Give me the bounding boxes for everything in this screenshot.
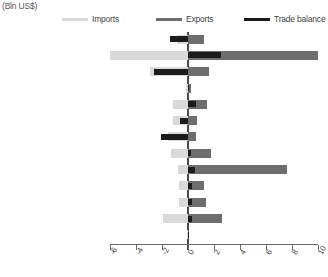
legend-swatch-exports	[156, 18, 182, 21]
bar-trade-balance	[188, 85, 189, 91]
bar-trade-balance	[180, 118, 188, 124]
bar-imports	[179, 198, 188, 207]
x-tick-label: 0	[186, 248, 196, 256]
bar-exports	[188, 67, 209, 76]
legend-item-imports: Imports	[62, 13, 119, 26]
bar-trade-balance	[188, 167, 195, 173]
legend-label-imports: Imports	[92, 14, 119, 25]
bar-row: Developed N. America	[110, 65, 318, 81]
chart-legend: Imports Exports Trade balance	[62, 13, 320, 26]
x-tick-label: -4	[134, 246, 145, 256]
legend-swatch-trade-balance	[244, 18, 270, 21]
bar-trade-balance	[188, 101, 196, 107]
legend-label-trade-balance: Trade balance	[274, 14, 325, 25]
bar-row: Sub-Saharan Africa	[110, 130, 318, 146]
legend-swatch-imports	[62, 18, 88, 21]
units-label: (Bln US$)	[2, 1, 37, 11]
bar-exports	[188, 132, 196, 141]
bar-row: Latin Am, Caribbean	[110, 146, 318, 162]
x-axis: -6-4-20246810	[110, 244, 318, 245]
bar-trade-balance	[161, 134, 188, 140]
x-tick-label: 10	[316, 245, 328, 257]
bar-trade-balance	[188, 150, 191, 156]
x-tick-label: 6	[264, 248, 274, 256]
bar-row: Southern Asia	[110, 179, 318, 195]
bar-trade-balance	[188, 52, 221, 58]
bar-imports	[179, 181, 188, 190]
bar-trade-balance	[188, 199, 192, 205]
legend-item-exports: Exports	[156, 13, 213, 26]
bar-imports	[178, 165, 188, 174]
bar-trade-balance	[188, 183, 192, 189]
x-tick-label: 2	[212, 248, 222, 256]
bar-exports	[188, 35, 204, 44]
bar-exports	[188, 214, 222, 223]
legend-label-exports: Exports	[186, 14, 213, 25]
bar-row: Developed Asia-Pacific	[110, 32, 318, 48]
bar-imports	[171, 149, 188, 158]
plot-area: Developed Asia-PacificDeveloped EuropeDe…	[110, 32, 318, 244]
x-tick-label: 8	[290, 248, 300, 256]
bar-row: South-eastern Asia	[110, 195, 318, 211]
bar-imports	[173, 100, 188, 109]
bar-imports	[110, 51, 188, 60]
bar-trade-balance	[188, 216, 192, 222]
bar-trade-balance	[170, 36, 188, 42]
bar-row: South-eastern Europe	[110, 81, 318, 97]
bar-row: Northern Africa	[110, 114, 318, 130]
bar-exports	[188, 116, 197, 125]
x-tick-label: 4	[238, 248, 248, 256]
legend-item-trade-balance: Trade balance	[244, 13, 325, 26]
x-tick-label: -2	[160, 246, 171, 256]
bar-exports	[188, 149, 211, 158]
bar-imports	[163, 214, 188, 223]
x-tick-label: -6	[108, 246, 119, 256]
bar-row: Oceania	[110, 228, 318, 244]
bar-row: Eastern Asia	[110, 162, 318, 178]
bar-row: Developed Europe	[110, 48, 318, 64]
bar-row: C I S	[110, 97, 318, 113]
bar-trade-balance	[154, 69, 188, 75]
bar-exports	[188, 165, 287, 174]
bar-trade-balance	[188, 232, 189, 238]
bar-row: Western Asia	[110, 211, 318, 227]
